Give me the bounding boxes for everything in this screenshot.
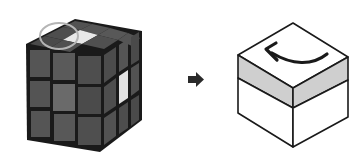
diagram-canvas: [0, 0, 363, 158]
right-arrow-icon: [188, 72, 204, 87]
left-cube: [26, 19, 142, 152]
rubiks-step-diagram: [0, 0, 363, 158]
right-cube: [238, 23, 348, 147]
cube-front-face: [30, 50, 101, 145]
